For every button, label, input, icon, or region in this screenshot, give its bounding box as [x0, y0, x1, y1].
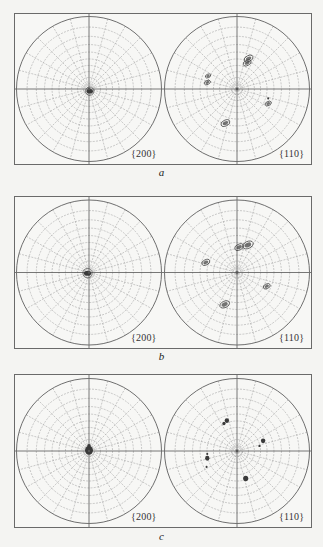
pole-figure-a-200 — [15, 14, 163, 164]
caption-c: c — [0, 530, 323, 542]
pole-spot — [261, 438, 265, 443]
pole-spot — [206, 466, 208, 468]
plane-label-c-110: {110} — [279, 511, 304, 522]
plane-label-b-200: {200} — [131, 332, 157, 343]
pole-figure-a-110 — [163, 14, 311, 164]
plane-label-a-110: {110} — [279, 148, 304, 159]
pole-spot — [267, 97, 269, 99]
caption-b: b — [0, 350, 323, 362]
pole-spot — [206, 453, 208, 455]
pole-spot — [258, 445, 260, 447]
pole-figure-b-110 — [163, 197, 311, 348]
plane-label-c-200: {200} — [131, 511, 157, 522]
plane-label-b-110: {110} — [279, 332, 304, 343]
plane-label-a-200: {200} — [131, 148, 157, 159]
pole-spot — [87, 444, 91, 448]
panel-b: {200} {110} — [14, 196, 312, 349]
caption-a: a — [0, 166, 323, 178]
pole-figure-composite: {200} {110} a {200} {110} b {200} {110} … — [0, 0, 323, 547]
pole-spot — [222, 422, 225, 426]
pole-spot — [225, 418, 229, 423]
panel-c: {200} {110} — [14, 374, 312, 528]
pole-spot — [243, 476, 248, 482]
pole-figure-b-200 — [15, 197, 163, 348]
pole-spots — [83, 269, 92, 278]
pole-spots — [85, 444, 93, 455]
panel-a: {200} {110} — [14, 13, 312, 165]
pole-figure-c-200 — [15, 375, 163, 527]
pole-figure-c-110 — [163, 375, 311, 527]
pole-spot — [205, 456, 209, 461]
